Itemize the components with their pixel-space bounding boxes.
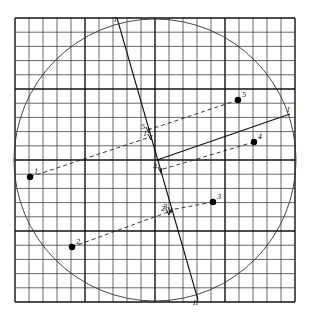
point-labels: 1122334455 [34,91,262,246]
data-points [27,97,257,250]
point-label-1: 1 [34,168,38,176]
point-label-3: 3 [217,193,222,201]
axis-bottom-label: II [192,299,199,307]
data-point-3 [210,199,216,205]
projection-line-2 [72,212,168,247]
data-point-5 [235,97,241,103]
projection-label-4: 4 [152,163,157,171]
point-label-4: 4 [257,133,262,141]
projection-label-5: 5 [141,123,146,131]
second-axis-line [157,114,290,160]
projection-label-3: 3 [163,203,168,211]
projection-label-1: 1 [143,130,147,138]
axis-right-label: I [286,106,290,114]
data-point-1 [27,174,33,180]
graph-paper-grid [15,18,295,302]
data-point-2 [69,244,75,250]
point-label-2: 2 [75,238,81,246]
projection-diagram: 1122334455 I II I [0,0,310,317]
projection-line-3 [170,202,213,210]
point-label-5: 5 [242,91,247,99]
projection-foot-1 [148,134,152,140]
projection-line-1 [30,137,150,177]
axis-top-label: I [113,16,117,24]
projection-line-4 [160,142,254,170]
data-point-4 [251,139,257,145]
